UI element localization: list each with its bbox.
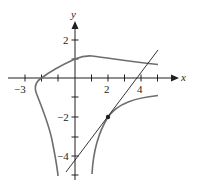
curve-lower-right-branch (92, 96, 158, 175)
x-axis: x −3 2 4 (8, 71, 186, 95)
y-tick-label-neg4: −4 (57, 150, 69, 162)
y-axis: y 2 −2 −4 (57, 8, 79, 180)
curve-left-branch (35, 78, 58, 176)
y-axis-arrow-icon (72, 21, 79, 29)
x-tick-label-4: 4 (137, 83, 143, 95)
tangency-point (106, 115, 110, 119)
x-axis-label: x (180, 71, 186, 83)
y-axis-label: y (70, 8, 76, 20)
y-tick-label-2: 2 (63, 34, 69, 46)
y-tick-label-neg2: −2 (57, 111, 69, 123)
x-tick-label-2: 2 (104, 83, 110, 95)
x-tick-label-neg3: −3 (14, 83, 26, 95)
graph-figure: x −3 2 4 y 2 −2 −4 (0, 0, 198, 183)
x-axis-arrow-icon (171, 75, 179, 82)
tangent-line (66, 50, 158, 172)
